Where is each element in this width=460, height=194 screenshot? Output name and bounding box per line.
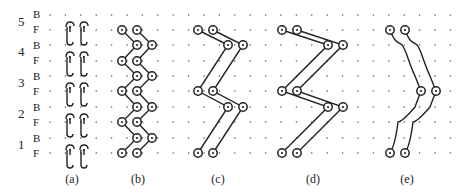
front-bed-label-3: F <box>33 86 39 97</box>
front-bed-label-5: F <box>33 24 39 35</box>
course-number-2: 2 <box>18 107 25 120</box>
back-bed-label-2: B <box>33 102 40 113</box>
back-bed-label-5: B <box>33 9 40 20</box>
knitting-lapping-diagram: 5 B F 4 B F 3 B F 2 B F 1 B F (a) (b) (c… <box>0 0 460 194</box>
panel-d-stitches <box>278 26 347 157</box>
panel-e-caption: (e) <box>400 172 413 187</box>
course-number-4: 4 <box>18 45 25 58</box>
back-bed-label-3: B <box>33 71 40 82</box>
course-number-1: 1 <box>18 138 25 151</box>
panel-e-stitches <box>386 26 440 157</box>
panel-b-caption: (b) <box>131 172 145 187</box>
front-bed-label-1: F <box>33 148 39 159</box>
panel-b-stitches <box>118 26 156 157</box>
panel-c-caption: (c) <box>211 172 224 187</box>
course-number-3: 3 <box>18 76 25 89</box>
course-number-5: 5 <box>18 15 25 28</box>
back-bed-label-4: B <box>33 40 40 51</box>
panel-a-caption: (a) <box>65 172 78 187</box>
diagram-canvas <box>0 0 460 194</box>
panel-c-stitches <box>194 26 247 157</box>
panel-d-caption: (d) <box>306 172 320 187</box>
front-bed-label-2: F <box>33 117 39 128</box>
front-bed-label-4: F <box>33 55 39 66</box>
needle-grid-dots <box>49 14 451 154</box>
panel-a-stitches <box>66 22 88 168</box>
back-bed-label-1: B <box>33 133 40 144</box>
